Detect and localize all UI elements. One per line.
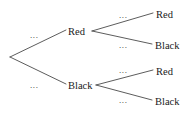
edge-label-red-to-black: ...	[119, 41, 128, 50]
probability-tree-diagram: Red Black Red Black Red Black ... ... ..…	[0, 0, 189, 114]
node-level2-black-red: Red	[156, 66, 173, 77]
node-level1-red: Red	[68, 26, 85, 37]
node-level2-red-red: Red	[156, 9, 173, 20]
edge-label-black-to-black: ...	[119, 96, 128, 105]
node-level1-black: Black	[68, 80, 93, 91]
edge-label-root-to-black: ...	[30, 81, 39, 90]
node-level2-black-black: Black	[155, 96, 180, 107]
edge-label-root-to-red: ...	[30, 31, 39, 40]
edge-label-red-to-red: ...	[119, 11, 128, 20]
node-level2-red-black: Black	[155, 40, 180, 51]
edge-label-black-to-red: ...	[119, 66, 128, 75]
